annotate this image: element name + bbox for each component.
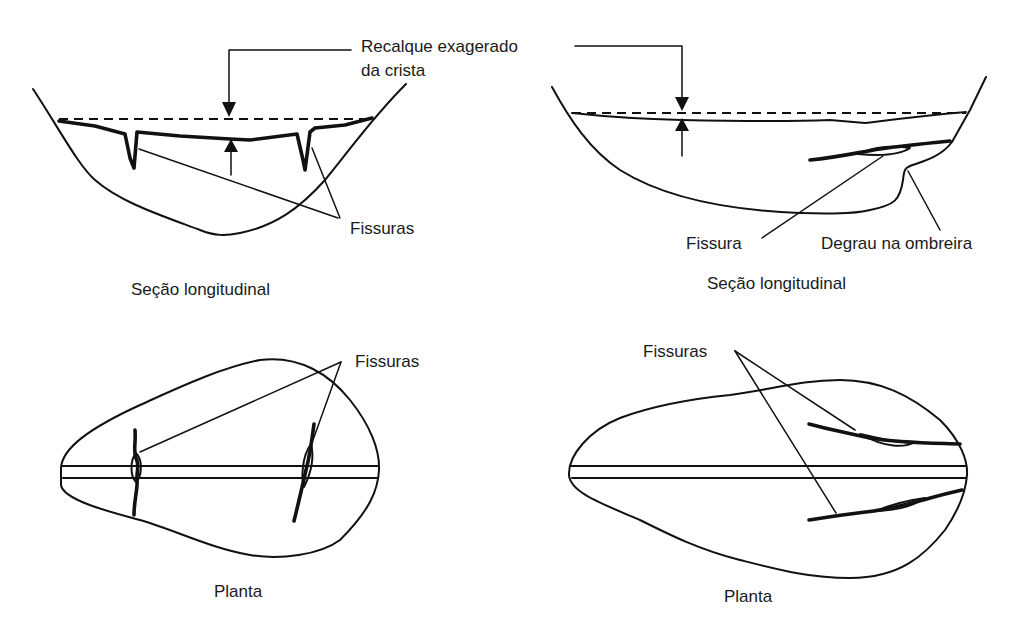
section-title: Seção longitudinal — [707, 274, 846, 293]
settlement-leader-left — [229, 50, 351, 103]
cracks-label: Fissuras — [643, 342, 707, 361]
section-title: Seção longitudinal — [131, 280, 270, 299]
crack-leader — [762, 156, 883, 238]
section-left: Fissuras Seção longitudinal — [33, 84, 414, 299]
step-leader — [908, 171, 940, 230]
section-right: Fissura Degrau na ombreira Seção longitu… — [552, 77, 986, 293]
crack-leader — [313, 362, 341, 440]
longitudinal-crack — [809, 424, 960, 444]
valley-profile — [33, 84, 406, 235]
settled-crest-line — [59, 118, 372, 170]
crack-leader — [735, 351, 836, 513]
settlement-label-line2: da crista — [361, 61, 426, 80]
crack-opening — [858, 146, 910, 154]
arrow-down-icon — [675, 97, 689, 111]
settlement-label: Recalque exagerado — [361, 37, 518, 56]
plan-right: Fissuras Planta — [569, 342, 967, 606]
step-label: Degrau na ombreira — [821, 234, 973, 253]
settlement-callout: Recalque exagerado da crista — [222, 37, 689, 117]
transverse-crack — [134, 430, 138, 515]
longitudinal-crack — [809, 490, 962, 520]
plan-title: Planta — [724, 587, 773, 606]
cracks-label: Fissuras — [355, 352, 419, 371]
transverse-crack — [294, 424, 314, 521]
crack-leader — [312, 148, 340, 218]
settlement-leader-right — [575, 46, 682, 98]
arrow-down-icon — [222, 102, 236, 117]
crack-label: Fissura — [686, 234, 742, 253]
dam-cracking-diagram: Recalque exagerado da crista Fissuras Se… — [0, 0, 1031, 631]
plan-left: Fissuras Planta — [61, 352, 419, 601]
plan-title: Planta — [214, 582, 263, 601]
crack-opening — [860, 434, 915, 446]
cracks-label: Fissuras — [350, 219, 414, 238]
